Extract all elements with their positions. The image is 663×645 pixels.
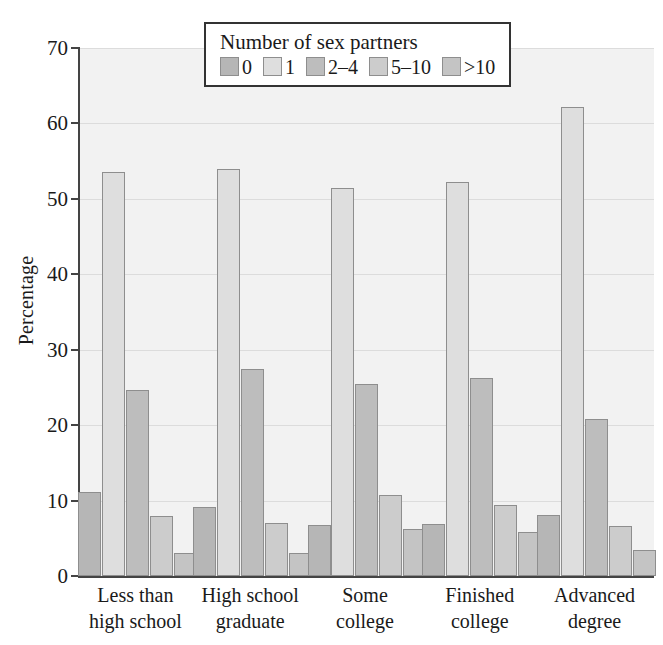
y-axis-tick-label: 30: [22, 339, 68, 360]
x-axis-tick-label: Somecollege: [308, 582, 423, 635]
bar: [633, 550, 656, 576]
legend-item-label: 2–4: [328, 57, 358, 77]
bar: [561, 107, 584, 576]
x-axis-tick-label-line: high school: [78, 608, 193, 634]
y-axis-tick-label: 60: [22, 113, 68, 134]
legend-swatch-icon: [442, 57, 461, 76]
x-axis-tick-label-line: graduate: [193, 608, 308, 634]
legend-item: 2–4: [306, 57, 358, 77]
bar: [78, 492, 101, 576]
legend-swatch-icon: [369, 57, 388, 76]
y-axis-tick: [71, 424, 80, 426]
legend-item-label: 5–10: [391, 57, 431, 77]
legend-items: 012–45–10>10: [220, 57, 495, 77]
bar: [537, 515, 560, 576]
legend-item-label: 0: [242, 57, 252, 77]
plot-area: [78, 48, 654, 578]
bar-group: [195, 48, 310, 576]
legend-item: >10: [442, 57, 495, 77]
y-axis-tick: [71, 47, 80, 49]
y-axis-tick-label: 40: [22, 264, 68, 285]
bar-group: [424, 48, 539, 576]
legend-item: 1: [263, 57, 295, 77]
bar: [470, 378, 493, 576]
bar: [265, 523, 288, 576]
legend-item: 5–10: [369, 57, 431, 77]
x-axis-tick-label: Advanceddegree: [537, 582, 652, 635]
x-axis-tick-label-line: Some: [308, 582, 423, 608]
bar: [193, 507, 216, 576]
bar: [217, 169, 240, 576]
x-axis-tick-label: Finishedcollege: [422, 582, 537, 635]
y-axis-tick-label: 70: [22, 38, 68, 59]
bar: [494, 505, 517, 576]
bar-group: [539, 48, 654, 576]
y-axis-tick: [71, 198, 80, 200]
bar: [126, 390, 149, 576]
y-axis-tick-label: 10: [22, 490, 68, 511]
bar: [422, 524, 445, 576]
bar: [379, 495, 402, 576]
x-axis-tick-label-line: college: [422, 608, 537, 634]
x-axis-tick-labels: Less thanhigh schoolHigh schoolgraduateS…: [78, 582, 652, 644]
x-axis-tick-label: High schoolgraduate: [193, 582, 308, 635]
bar: [308, 525, 331, 576]
bar-chart: Percentage 010203040506070 Less thanhigh…: [0, 0, 663, 645]
y-axis-tick: [71, 273, 80, 275]
bar: [241, 369, 264, 576]
y-axis-tick: [71, 349, 80, 351]
y-axis-tick-label: 20: [22, 415, 68, 436]
x-axis-tick-label-line: college: [308, 608, 423, 634]
bar: [609, 526, 632, 576]
y-axis-tick-label: 0: [22, 566, 68, 587]
x-axis-tick-label-line: Advanced: [537, 582, 652, 608]
bar: [102, 172, 125, 576]
legend-title: Number of sex partners: [220, 30, 495, 55]
bar: [585, 419, 608, 576]
x-axis-tick-label-line: degree: [537, 608, 652, 634]
legend: Number of sex partners 012–45–10>10: [204, 22, 511, 87]
legend-item-label: >10: [464, 57, 495, 77]
legend-item-label: 1: [285, 57, 295, 77]
bar-group: [310, 48, 425, 576]
bar: [355, 384, 378, 576]
x-axis-tick-label-line: High school: [193, 582, 308, 608]
y-axis-tick: [71, 122, 80, 124]
bar: [446, 182, 469, 576]
y-axis-tick-labels: 010203040506070: [14, 48, 68, 576]
x-axis-tick-label-line: Less than: [78, 582, 193, 608]
bar: [331, 188, 354, 576]
y-axis-tick-label: 50: [22, 188, 68, 209]
legend-swatch-icon: [220, 57, 239, 76]
bar: [150, 516, 173, 576]
bar-group: [80, 48, 195, 576]
legend-swatch-icon: [306, 57, 325, 76]
x-axis-tick-label-line: Finished: [422, 582, 537, 608]
legend-swatch-icon: [263, 57, 282, 76]
x-axis-tick-label: Less thanhigh school: [78, 582, 193, 635]
legend-item: 0: [220, 57, 252, 77]
